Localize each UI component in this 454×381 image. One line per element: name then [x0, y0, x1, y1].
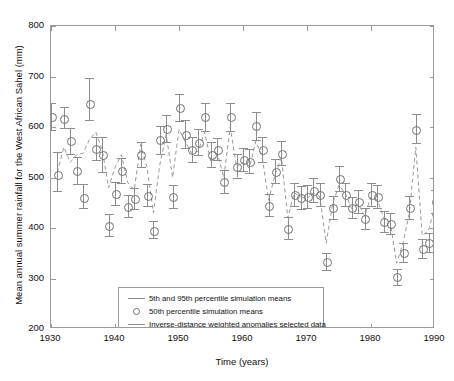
median-marker: [131, 195, 140, 204]
error-bar-cap: [207, 167, 216, 168]
error-bar: [89, 78, 90, 120]
x-tick-mark: [371, 26, 372, 31]
error-bar-cap: [354, 213, 363, 214]
error-bar-cap: [431, 213, 434, 214]
error-bar-cap: [79, 208, 88, 209]
error-bar-cap: [418, 258, 427, 259]
error-bar-cap: [393, 285, 402, 286]
median-marker: [144, 192, 153, 201]
error-bar-cap: [290, 183, 299, 184]
median-marker: [272, 168, 281, 177]
y-tick-mark: [430, 26, 434, 27]
error-bar-cap: [373, 185, 382, 186]
x-tick-label: 1970: [286, 332, 326, 343]
legend-label-percentile-band: 5th and 95th percentile simulation means: [149, 292, 291, 305]
error-bar-cap: [92, 160, 101, 161]
error-bar-cap: [105, 214, 114, 215]
anomaly-line-layer: [51, 26, 434, 328]
y-tick-mark: [51, 178, 56, 179]
median-marker: [361, 215, 370, 224]
median-marker: [80, 194, 89, 203]
error-bar-cap: [258, 137, 267, 138]
error-bar-cap: [201, 103, 210, 104]
median-marker: [284, 225, 293, 234]
median-marker: [214, 146, 223, 155]
error-bar-cap: [341, 183, 350, 184]
median-marker: [112, 190, 121, 199]
error-bar-cap: [399, 262, 408, 263]
error-bar-cap: [380, 211, 389, 212]
error-bar-cap: [354, 190, 363, 191]
error-bar-cap: [137, 167, 146, 168]
error-bar-cap: [220, 170, 229, 171]
error-bar-cap: [188, 162, 197, 163]
error-bar-cap: [271, 159, 280, 160]
chart-legend: 5th and 95th percentile simulation means…: [118, 287, 324, 328]
error-bar-cap: [329, 196, 338, 197]
error-bar-cap: [297, 209, 306, 210]
error-bar-cap: [348, 218, 357, 219]
median-marker: [412, 126, 421, 135]
y-tick-label: 700: [8, 70, 44, 81]
legend-circle-icon: [123, 305, 149, 318]
error-bar-cap: [130, 209, 139, 210]
x-tick-mark: [115, 324, 116, 328]
y-tick-mark: [51, 127, 56, 128]
error-bar-cap: [169, 208, 178, 209]
x-tick-label: 1950: [158, 332, 198, 343]
y-tick-label: 300: [8, 272, 44, 283]
error-bar-cap: [194, 129, 203, 130]
error-bar-cap: [130, 188, 139, 189]
error-bar-cap: [233, 154, 242, 155]
error-bar-cap: [297, 186, 306, 187]
median-marker: [67, 137, 76, 146]
y-tick-label: 600: [8, 120, 44, 131]
median-marker: [246, 158, 255, 167]
legend-item-median: 50th percentile simulation means: [123, 305, 318, 318]
error-bar-cap: [111, 205, 120, 206]
error-bar-cap: [137, 142, 146, 143]
plot-area: 5th and 95th percentile simulation means…: [50, 25, 434, 328]
error-bar-cap: [265, 216, 274, 217]
x-tick-label: 1980: [350, 332, 390, 343]
error-bar-cap: [335, 166, 344, 167]
error-bar-cap: [271, 183, 280, 184]
error-bar-cap: [117, 158, 126, 159]
error-bar-cap: [105, 236, 114, 237]
x-axis-title: Time (years): [50, 356, 434, 367]
error-bar-cap: [162, 142, 171, 143]
error-bar-cap: [220, 193, 229, 194]
error-bar-cap: [361, 229, 370, 230]
error-bar-cap: [169, 185, 178, 186]
error-bar-cap: [201, 131, 210, 132]
legend-item-percentile-band: 5th and 95th percentile simulation means: [123, 292, 318, 305]
error-bar-cap: [425, 252, 434, 253]
error-bar-cap: [431, 190, 434, 191]
error-bar-cap: [226, 131, 235, 132]
median-marker: [342, 191, 351, 200]
median-marker: [323, 258, 332, 267]
legend-line-icon: [123, 292, 149, 305]
error-bar-cap: [309, 178, 318, 179]
error-bar-cap: [162, 115, 171, 116]
error-bar-cap: [290, 206, 299, 207]
error-bar-cap: [156, 154, 165, 155]
median-marker: [99, 151, 108, 160]
error-bar-cap: [245, 149, 254, 150]
error-bar-cap: [316, 183, 325, 184]
error-bar-cap: [53, 191, 62, 192]
x-tick-mark: [307, 26, 308, 31]
y-tick-label: 500: [8, 171, 44, 182]
x-tick-label: 1990: [414, 332, 454, 343]
error-bar-cap: [405, 219, 414, 220]
error-bar-cap: [399, 243, 408, 244]
error-bar-cap: [303, 185, 312, 186]
error-bar-cap: [386, 234, 395, 235]
error-bar-cap: [316, 206, 325, 207]
error-bar-cap: [367, 183, 376, 184]
median-marker: [176, 104, 185, 113]
error-bar-cap: [425, 233, 434, 234]
median-marker: [259, 146, 268, 155]
error-bar-cap: [117, 183, 126, 184]
error-bar-cap: [303, 208, 312, 209]
